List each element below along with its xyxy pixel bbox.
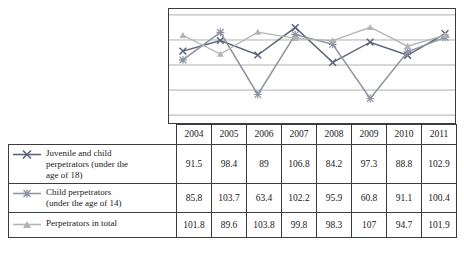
legend-cell-series2: Child perpetrators (under the age of 14) xyxy=(9,184,177,213)
table-cell: 103.7 xyxy=(212,184,247,213)
column-header: 2008 xyxy=(317,125,352,145)
gridlines xyxy=(169,15,455,115)
table-cell: 98.3 xyxy=(317,212,352,237)
table-cell: 84.2 xyxy=(317,145,352,184)
table-cell: 94.7 xyxy=(387,212,422,237)
data-table: 2004 2005 2006 2007 2008 2009 2010 2011 xyxy=(8,124,457,238)
table-cell: 101.8 xyxy=(177,212,212,237)
table-cell: 91.1 xyxy=(387,184,422,213)
column-header: 2010 xyxy=(387,125,422,145)
cross-line-icon xyxy=(13,149,41,162)
series-layer xyxy=(179,24,449,103)
table-row: Child perpetrators (under the age of 14)… xyxy=(9,184,457,213)
table-cell: 63.4 xyxy=(247,184,282,213)
table-cell: 98.4 xyxy=(212,145,247,184)
table-cell: 103.8 xyxy=(247,212,282,237)
legend-label-series2: Child perpetrators (under the age of 14) xyxy=(46,187,121,209)
table-cell: 106.8 xyxy=(282,145,317,184)
legend-cell-series1: Juvenile and child perpetrators (under t… xyxy=(9,145,177,184)
asterisk-line-icon xyxy=(13,188,41,201)
table-cell: 88.8 xyxy=(387,145,422,184)
table-cell: 107 xyxy=(352,212,387,237)
legend-cell-series3: Perpetrators in total xyxy=(9,212,177,237)
table-cell: 102.2 xyxy=(282,184,317,213)
table-row: Perpetrators in total 101.8 89.6 103.8 9… xyxy=(9,212,457,237)
table-cell: 97.3 xyxy=(352,145,387,184)
column-header: 2009 xyxy=(352,125,387,145)
triangle-line-icon xyxy=(13,219,41,232)
column-header: 2005 xyxy=(212,125,247,145)
column-header: 2004 xyxy=(177,125,212,145)
table-row: Juvenile and child perpetrators (under t… xyxy=(9,145,457,184)
table-cell: 89.6 xyxy=(212,212,247,237)
table-cell: 89 xyxy=(247,145,282,184)
table-cell: 85.8 xyxy=(177,184,212,213)
column-header: 2006 xyxy=(247,125,282,145)
table-cell: 101.9 xyxy=(422,212,457,237)
legend-label-series1: Juvenile and child perpetrators (under t… xyxy=(46,148,128,180)
table-cell: 100.4 xyxy=(422,184,457,213)
table-cell: 60.8 xyxy=(352,184,387,213)
chart-figure: 2004 2005 2006 2007 2008 2009 2010 2011 xyxy=(0,0,464,259)
table-cell: 95.9 xyxy=(317,184,352,213)
plot-area xyxy=(168,8,456,124)
data-table-wrap: 2004 2005 2006 2007 2008 2009 2010 2011 xyxy=(8,124,456,238)
table-cell: 102.9 xyxy=(422,145,457,184)
table-corner-cell xyxy=(9,125,177,145)
line-chart-svg xyxy=(169,9,455,123)
table-header-row: 2004 2005 2006 2007 2008 2009 2010 2011 xyxy=(9,125,457,145)
column-header: 2011 xyxy=(422,125,457,145)
table-cell: 91.5 xyxy=(177,145,212,184)
legend-label-series3: Perpetrators in total xyxy=(46,218,117,229)
table-cell: 99.8 xyxy=(282,212,317,237)
column-header: 2007 xyxy=(282,125,317,145)
